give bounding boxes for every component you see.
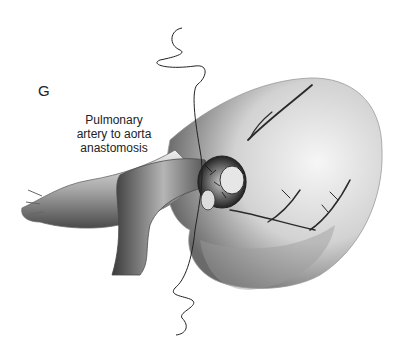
caption-line: Pulmonary: [64, 113, 164, 127]
panel-label: G: [38, 82, 50, 99]
heart-illustration: [0, 0, 410, 359]
caption-line: anastomosis: [64, 141, 164, 155]
figure: G Pulmonary artery to aorta anastomosis: [0, 0, 410, 359]
figure-caption: Pulmonary artery to aorta anastomosis: [64, 113, 164, 155]
caption-line: artery to aorta: [64, 127, 164, 141]
